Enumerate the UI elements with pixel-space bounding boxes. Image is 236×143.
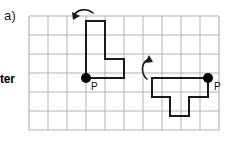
- right-shape-point-p-marker: [203, 73, 213, 83]
- left-shape-point-p-label: P: [91, 81, 98, 92]
- rotation-arrows-layer: [72, 10, 153, 79]
- left-shape-point-p-marker: [81, 73, 91, 83]
- rotation-arrow-right-head: [145, 55, 153, 63]
- rotation-arrow-left-curve: [74, 10, 93, 15]
- figure-container: a) ter PP: [0, 0, 236, 143]
- row-label-text: ter: [0, 72, 15, 86]
- right-shape-point-p-label: P: [214, 81, 221, 92]
- part-label: a): [4, 8, 16, 23]
- transformation-diagram: PP: [0, 0, 236, 143]
